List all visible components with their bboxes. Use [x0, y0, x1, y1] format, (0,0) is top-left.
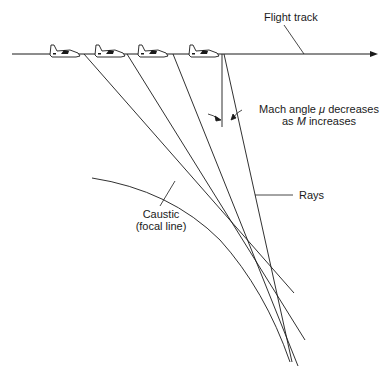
aircraft-group	[50, 45, 219, 57]
aircraft-icon	[138, 45, 168, 57]
mach-number-symbol: M	[297, 115, 306, 127]
caustic-line1: Caustic	[126, 208, 196, 220]
flight-track-label: Flight track	[264, 11, 318, 23]
aircraft-icon	[95, 45, 125, 57]
arrow-head-icon	[370, 51, 378, 57]
caustic-curve	[92, 178, 290, 362]
caustic-label: Caustic (focal line)	[126, 208, 196, 232]
mach-angle-label: Mach angle μ decreases as M increases	[258, 103, 380, 127]
rays-label: Rays	[299, 189, 324, 201]
mach-angle-line2: as M increases	[258, 115, 380, 127]
flight-track-leader	[284, 25, 304, 54]
caustic-line2: (focal line)	[126, 220, 196, 232]
mach-angle-line1: Mach angle μ decreases	[258, 103, 380, 115]
aircraft-icon	[50, 45, 80, 57]
arrow-head-icon	[215, 116, 221, 121]
aircraft-icon	[189, 45, 219, 57]
diagram-canvas	[0, 0, 384, 373]
